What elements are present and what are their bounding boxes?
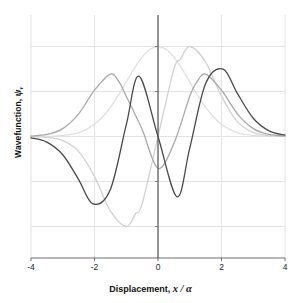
plot-canvas <box>0 0 301 303</box>
x-axis-label: Displacement, x / α <box>0 283 301 294</box>
x-tick-label: 2 <box>210 262 234 272</box>
x-tick-label: 0 <box>146 262 170 272</box>
y-axis-label-subscript: v <box>18 87 24 90</box>
x-tick-label: 4 <box>273 262 297 272</box>
x-axis-label-rest: / α <box>180 283 191 294</box>
chart-figure: Wavefunction, ψv -4-2024 Displacement, x… <box>0 0 301 303</box>
x-tick-label: -2 <box>83 262 107 272</box>
x-tick-label: -4 <box>19 262 43 272</box>
y-axis-label-text: Wavefunction, <box>13 99 23 158</box>
y-axis-label-symbol: ψ <box>12 90 23 97</box>
x-axis-label-variable: x <box>173 283 178 294</box>
x-axis-label-text: Displacement, <box>109 284 170 294</box>
y-axis-label: Wavefunction, ψv <box>12 42 25 202</box>
